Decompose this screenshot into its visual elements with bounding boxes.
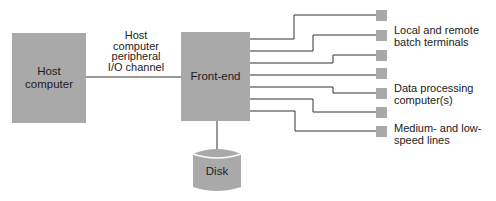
front-end-processor-diagram: Host computer Front-end Host computer pe… [0, 0, 496, 201]
front-end-box: Front-end [181, 32, 250, 121]
data-processing-label: Data processing computer(s) [394, 82, 474, 106]
terminal-line-2 [250, 35, 376, 51]
disk-label: Disk [193, 165, 241, 177]
batch-terminals-label: Local and remote batch terminals [394, 24, 479, 48]
host-computer-label: Host computer [25, 65, 73, 91]
terminal-node-6 [376, 107, 387, 118]
host-computer-box: Host computer [12, 33, 86, 123]
io-channel-label: Host computer peripheral I/O channel [96, 30, 176, 72]
terminal-line-5 [250, 87, 376, 93]
terminal-node-3 [376, 50, 387, 61]
terminal-line-6 [250, 99, 376, 112]
terminal-node-5 [376, 88, 387, 99]
front-end-label: Front-end [191, 70, 241, 83]
terminal-node-4 [376, 68, 387, 79]
terminal-node-1 [376, 10, 387, 21]
terminal-node-2 [376, 30, 387, 41]
terminal-line-7 [250, 111, 376, 131]
terminal-node-7 [376, 126, 387, 137]
terminal-line-3 [250, 55, 376, 63]
low-speed-lines-label: Medium- and low- speed lines [394, 122, 481, 146]
